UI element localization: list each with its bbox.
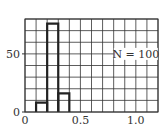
histogram-bar (36, 103, 47, 112)
histogram-bar (58, 93, 69, 112)
x-tick-label: 0 (22, 114, 29, 127)
histogram-chart: 050 00.51.0 N = 100 (0, 0, 167, 132)
x-axis-ticks: 00.51.0 (22, 114, 145, 127)
sample-size-label: N = 100 (112, 48, 159, 61)
histogram-bar (47, 24, 58, 112)
x-tick-label: 1.0 (127, 114, 145, 127)
grid-lines (25, 19, 158, 112)
annotation: N = 100 (112, 48, 159, 61)
x-tick-label: 0.5 (72, 114, 90, 127)
histogram-bars (36, 24, 69, 112)
y-axis-ticks: 050 (6, 48, 25, 119)
y-tick-label: 0 (13, 106, 20, 119)
y-tick-label: 50 (6, 48, 20, 61)
